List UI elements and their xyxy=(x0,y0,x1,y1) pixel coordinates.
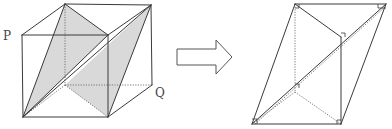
parallelepiped-visible-edges xyxy=(252,4,386,124)
edge xyxy=(22,35,23,117)
parallelepiped-figure xyxy=(252,4,386,124)
edge xyxy=(295,4,341,37)
hidden-edge xyxy=(252,92,295,124)
edge xyxy=(65,4,151,5)
edge xyxy=(341,4,386,124)
hidden-edge xyxy=(295,92,341,124)
right-arrow-icon xyxy=(177,40,232,74)
edge xyxy=(252,4,295,124)
right-angle-mark xyxy=(341,33,345,37)
edge xyxy=(252,4,386,124)
cube-figure: P Q xyxy=(3,4,165,117)
vertex-label-p: P xyxy=(3,29,11,43)
diagram-canvas: P Q xyxy=(0,0,392,129)
edge xyxy=(151,5,152,85)
hidden-edge xyxy=(255,6,386,124)
vertex-label-q: Q xyxy=(155,86,165,100)
